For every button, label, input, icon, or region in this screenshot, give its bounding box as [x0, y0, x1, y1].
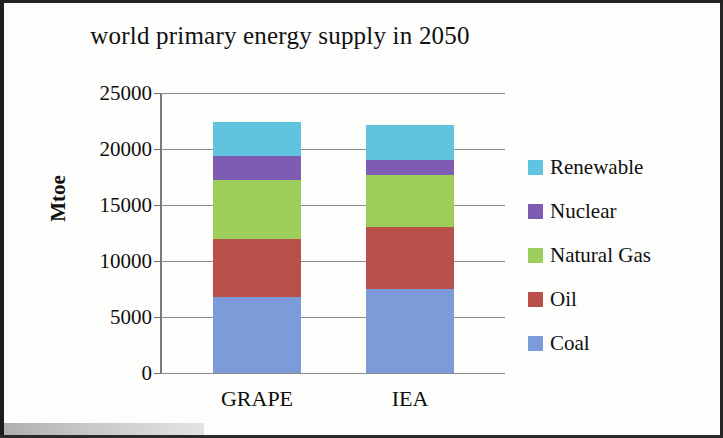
y-tick-mark-10000 — [154, 261, 161, 262]
bar-segment-natural-gas[interactable] — [366, 175, 454, 228]
y-axis-tick-labels: 0500010000150002000025000 — [58, 93, 152, 373]
y-tick-mark-0 — [154, 373, 161, 374]
chart-legend: RenewableNuclearNatural GasOilCoal — [528, 145, 718, 365]
bar-segment-renewable[interactable] — [213, 122, 301, 156]
legend-item-renewable[interactable]: Renewable — [528, 145, 718, 189]
bar-segment-coal[interactable] — [366, 289, 454, 373]
x-tick-label-iea: IEA — [330, 386, 490, 412]
y-tick-label: 25000 — [60, 81, 152, 106]
y-tick-label: 20000 — [60, 137, 152, 162]
legend-label: Renewable — [550, 157, 643, 178]
y-tick-mark-15000 — [154, 205, 161, 206]
legend-swatch-icon — [528, 336, 543, 351]
y-tick-label: 5000 — [60, 305, 152, 330]
bar-segment-nuclear[interactable] — [213, 156, 301, 181]
y-tick-mark-25000 — [154, 93, 161, 94]
y-tick-label: 0 — [60, 361, 152, 386]
legend-item-natural-gas[interactable]: Natural Gas — [528, 233, 718, 277]
bar-segment-natural-gas[interactable] — [213, 180, 301, 238]
legend-item-coal[interactable]: Coal — [528, 321, 718, 365]
bar-segment-coal[interactable] — [213, 297, 301, 373]
bar-segment-oil[interactable] — [366, 227, 454, 289]
legend-label: Oil — [550, 289, 577, 310]
chart-title: world primary energy supply in 2050 — [0, 22, 560, 50]
legend-label: Nuclear — [550, 201, 616, 222]
y-tick-label: 15000 — [60, 193, 152, 218]
legend-item-oil[interactable]: Oil — [528, 277, 718, 321]
gridline-0 — [160, 373, 505, 374]
legend-item-nuclear[interactable]: Nuclear — [528, 189, 718, 233]
legend-swatch-icon — [528, 160, 543, 175]
y-tick-label: 10000 — [60, 249, 152, 274]
bar-segment-nuclear[interactable] — [366, 160, 454, 175]
stacked-bar-chart: world primary energy supply in 2050 Mtoe… — [0, 0, 723, 438]
legend-label: Natural Gas — [550, 245, 651, 266]
bar-group-grape[interactable] — [213, 93, 301, 373]
legend-swatch-icon — [528, 248, 543, 263]
y-tick-mark-20000 — [154, 149, 161, 150]
scanned-figure-page: world primary energy supply in 2050 Mtoe… — [0, 0, 723, 438]
legend-swatch-icon — [528, 204, 543, 219]
x-tick-label-grape: GRAPE — [177, 386, 337, 412]
bar-segment-oil[interactable] — [213, 239, 301, 297]
plot-area — [160, 93, 505, 373]
y-tick-mark-5000 — [154, 317, 161, 318]
bar-segment-renewable[interactable] — [366, 125, 454, 160]
y-axis-line — [160, 93, 162, 374]
legend-swatch-icon — [528, 292, 543, 307]
bar-group-iea[interactable] — [366, 93, 454, 373]
legend-label: Coal — [550, 333, 590, 354]
